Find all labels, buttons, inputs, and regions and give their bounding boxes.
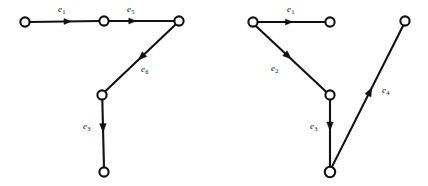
edge-e2 bbox=[256, 26, 327, 92]
graph-node-node-junction bbox=[97, 90, 106, 99]
edge-e4-line bbox=[332, 26, 403, 168]
edge-e3-arrowhead-icon bbox=[327, 122, 334, 130]
left-directed-graph bbox=[20, 16, 183, 176]
edge-e5 bbox=[109, 18, 175, 24]
edge-e6-label: e6 bbox=[141, 65, 148, 74]
edge-e2-label-subscript: 2 bbox=[275, 67, 278, 74]
edge-e6-label-subscript: 6 bbox=[145, 68, 148, 75]
graph-canvas bbox=[0, 0, 428, 186]
edge-e3-label: e3 bbox=[310, 122, 317, 131]
edge-e3-label-subscript: 3 bbox=[314, 125, 317, 132]
edge-e4-label-subscript: 4 bbox=[386, 89, 389, 96]
edge-e5-label: e5 bbox=[127, 5, 134, 14]
graph-node-node-top-left bbox=[20, 17, 29, 26]
edge-e3 bbox=[327, 100, 334, 167]
graph-node-node-top-middle bbox=[99, 16, 108, 25]
edge-e5-label-subscript: 5 bbox=[131, 8, 134, 15]
edge-e2-label: e2 bbox=[271, 64, 278, 73]
graph-node-node-bottom bbox=[325, 167, 335, 177]
graph-node-node-top-right bbox=[400, 16, 409, 25]
edge-e1-arrowhead-icon bbox=[64, 19, 72, 25]
edge-e1 bbox=[258, 19, 326, 25]
edge-e1-label-subscript: 1 bbox=[62, 8, 65, 15]
edge-e4 bbox=[332, 26, 403, 168]
graph-node-node-top-right bbox=[174, 16, 183, 25]
edge-e5-arrowhead-icon bbox=[129, 18, 137, 24]
edge-e3-line bbox=[102, 100, 104, 168]
figure-root: e1e5e6e3e1e2e3e4 bbox=[0, 0, 428, 186]
edge-e1 bbox=[30, 19, 100, 25]
edge-e3-label: e3 bbox=[83, 122, 90, 131]
graph-node-node-bottom bbox=[99, 167, 108, 176]
edge-e6 bbox=[105, 25, 175, 92]
graph-node-node-top-left bbox=[248, 17, 257, 26]
right-directed-graph bbox=[248, 16, 409, 177]
graph-node-node-junction bbox=[325, 90, 334, 99]
edge-e4-label: e4 bbox=[382, 86, 389, 95]
edge-e1-label: e1 bbox=[58, 5, 65, 14]
edge-e3-label-subscript: 3 bbox=[87, 125, 90, 132]
edge-e1-label: e1 bbox=[287, 5, 294, 14]
edge-e1-label-subscript: 1 bbox=[291, 8, 294, 15]
edge-e1-arrowhead-icon bbox=[285, 19, 293, 25]
graph-node-node-top-middle bbox=[325, 17, 334, 26]
edge-e4-arrowhead-icon bbox=[365, 88, 372, 97]
edge-e3 bbox=[100, 100, 107, 168]
edge-e3-arrowhead-icon bbox=[100, 124, 107, 133]
